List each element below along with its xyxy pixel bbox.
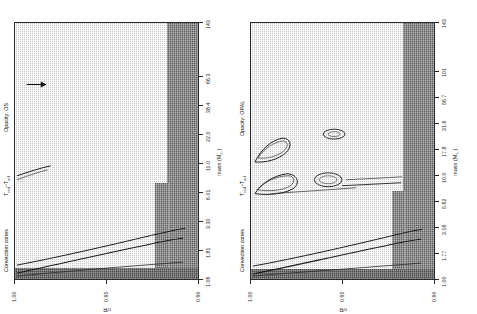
annotation-convection-zones-right: Convection zones [239,229,245,272]
xtick-label: 6.01 [205,190,211,201]
xtick-label: 1.00 [441,277,447,288]
xtick-label: 17.8 [441,147,447,158]
annotation-trad-tad-right: Trad−Tad [239,176,247,196]
annotation-convection-zones-left: Convection zones [3,229,9,272]
xtick-label: 11.0 [205,161,211,171]
xtick-label: 3.30 [205,219,211,230]
plot-area-left [14,22,199,280]
xtick-label: 1.81 [205,248,211,259]
ytick-label: 0.90 [431,292,437,303]
ytick-label: 0.95 [103,292,109,303]
panel-right: 1.00 1.77 3.16 5.62 10.0 17.8 31.6 56.7 … [240,4,476,308]
contour-overlay-right [251,23,434,279]
annotation-trad-tad-left: Trad−Tad [3,176,11,196]
xtick-label: 143 [205,20,211,29]
panel-left-container: 1.06 1.81 3.30 6.01 11.0 22.0 38.4 66.3 … [4,4,240,308]
xtick-label: 31.6 [441,121,447,132]
panel-title-left: Opacity: OS [3,103,9,132]
plot-area-right [250,22,435,280]
xtick-label: 56.7 [441,95,447,106]
xaxis-label-right: mass (M☉) [452,149,460,176]
xtick-label: 10.0 [441,173,447,184]
panel-title-right: Opacity: OPAL [239,101,245,136]
yaxis-label-left: r/R [103,307,110,313]
xtick-label: 66.3 [205,74,211,85]
arrow-marker-left [27,82,47,88]
panel-left: 1.06 1.81 3.30 6.01 11.0 22.0 38.4 66.3 … [4,4,240,308]
figure-canvas: 1.06 1.81 3.30 6.01 11.0 22.0 38.4 66.3 … [0,0,477,314]
xtick-label: 5.62 [441,199,447,210]
xaxis-label-left: mass (M☉) [216,149,224,176]
panel-right-container: 1.00 1.77 3.16 5.62 10.0 17.8 31.6 56.7 … [240,4,476,308]
xtick-label: 38.4 [205,103,211,114]
yaxis-label-right: r/R [339,307,346,313]
xtick-label: 101 [441,68,447,77]
xtick-label: 22.0 [205,132,211,143]
xtick-label: 1.77 [441,251,447,262]
xtick-label: 1.06 [205,277,211,288]
ytick-label: 0.95 [339,292,345,303]
ytick-label: 1.00 [247,292,253,303]
xtick-label: 3.16 [441,225,447,236]
contour-overlay-left [15,23,198,279]
xtick-label: 143 [441,19,447,28]
ytick-label: 1.00 [11,292,17,303]
ytick-label: 0.90 [195,292,201,303]
